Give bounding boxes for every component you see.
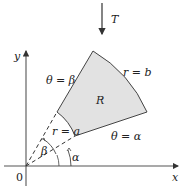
upper-ray-label: θ = β <box>46 74 75 87</box>
region-label: R <box>95 94 104 107</box>
x-axis-label: x <box>172 171 179 184</box>
angle-alpha-tick <box>67 148 71 151</box>
y-axis-label: y <box>13 50 21 63</box>
angle-vertex-arc <box>57 155 59 166</box>
lower-ray-label: θ = α <box>111 130 142 143</box>
beta-label: β <box>40 145 47 158</box>
origin-label: 0 <box>16 171 23 184</box>
polar-region-diagram: T x y 0 R r = b r = a θ = β θ = α α β <box>0 0 184 187</box>
angle-alpha-arc <box>68 150 71 166</box>
ray-theta-alpha-dashed <box>26 136 75 166</box>
alpha-label: α <box>72 151 80 164</box>
outer-arc-label: r = b <box>123 66 152 79</box>
inner-arc-label: r = a <box>52 125 80 138</box>
transform-label: T <box>111 13 120 26</box>
